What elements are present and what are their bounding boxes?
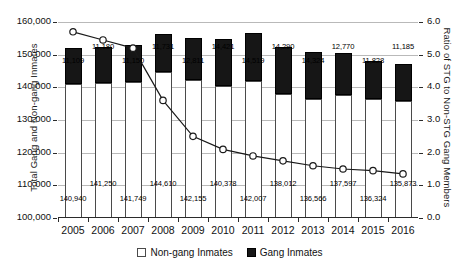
x-axis-tick-label: 2011 (242, 224, 265, 236)
x-axis-tick-label: 2008 (151, 224, 174, 236)
x-axis-tick-label: 2005 (61, 224, 84, 236)
black-fill-swatch (247, 248, 256, 257)
nongang-value-label: 142,155 (180, 194, 207, 203)
y-axis-left-tick-mark (53, 185, 57, 186)
ratio-data-point[interactable] (160, 97, 166, 103)
x-axis-tick-mark (148, 218, 149, 222)
ratio-data-point[interactable] (310, 163, 316, 169)
gang-value-label: 14,324 (302, 56, 325, 65)
x-axis-tick-mark (328, 218, 329, 222)
chart-legend: Non-gang InmatesGang Inmates (0, 247, 460, 258)
ratio-data-point[interactable] (220, 146, 226, 152)
y-axis-right-tick-mark (419, 22, 423, 23)
ratio-data-point[interactable] (400, 171, 406, 177)
gang-value-label: 11,109 (62, 56, 84, 65)
y-axis-left-tick-label: 150,000 (17, 48, 51, 59)
y-axis-right-tick-label: 3.0 (427, 113, 440, 124)
gang-value-label: 14,290 (272, 42, 295, 51)
y-axis-right-tick-label: 4.0 (427, 80, 440, 91)
y-axis-right-tick-label: 0.0 (427, 211, 440, 222)
nongang-value-label: 138,012 (270, 179, 297, 188)
y-axis-left-tick-mark (53, 22, 57, 23)
nongang-value-label: 137,597 (330, 179, 357, 188)
gang-value-label: 14,519 (242, 56, 265, 65)
x-axis-tick-mark (58, 218, 59, 222)
legend-item-label: Non-gang Inmates (150, 247, 232, 258)
y-axis-right-tick-mark (419, 185, 423, 186)
gang-value-label: 12,770 (332, 42, 355, 51)
ratio-data-point[interactable] (250, 153, 256, 159)
ratio-data-point[interactable] (280, 158, 286, 164)
x-axis-tick-mark (178, 218, 179, 222)
x-axis-tick-label: 2014 (331, 224, 354, 236)
y-axis-right-tick-label: 5.0 (427, 48, 440, 59)
gang-value-label: 11,828 (362, 56, 384, 65)
gang-value-label: 11,185 (392, 42, 414, 51)
x-axis-tick-label: 2016 (391, 224, 414, 236)
nongang-value-label: 136,566 (300, 194, 327, 203)
nongang-value-label: 135,873 (390, 179, 417, 188)
x-axis-tick-label: 2010 (211, 224, 234, 236)
nongang-value-label: 144,610 (150, 179, 177, 188)
y-axis-left-tick-label: 160,000 (17, 15, 51, 26)
nongang-value-label: 140,378 (210, 179, 237, 188)
x-axis-tick-mark (388, 218, 389, 222)
x-axis-tick-mark (208, 218, 209, 222)
ratio-data-point[interactable] (130, 45, 136, 51)
gang-value-label: 11,180 (92, 42, 114, 51)
ratio-data-point[interactable] (70, 29, 76, 35)
plot-area: 100,000110,000120,000130,000140,000150,0… (58, 22, 418, 218)
y-axis-left-tick-mark (53, 120, 57, 121)
y-axis-left-tick-mark (53, 218, 57, 219)
y-axis-right-tick-mark (419, 55, 423, 56)
x-axis-line (58, 217, 418, 218)
y-axis-right-tick-mark (419, 87, 423, 88)
y-axis-left-tick-mark (53, 55, 57, 56)
y-axis-left-tick-label: 130,000 (17, 113, 51, 124)
y-axis-right-tick-mark (419, 120, 423, 121)
nongang-value-label: 140,940 (60, 194, 87, 203)
nongang-value-label: 141,250 (90, 179, 117, 188)
stacked-bar-line-chart: Total Gang and Non-gang Inmates Ratio of… (0, 0, 460, 268)
y-axis-right-title: Ratio of STG to Non-STG Gang Members (442, 23, 453, 213)
ratio-data-point[interactable] (370, 167, 376, 173)
y-axis-right-tick-mark (419, 153, 423, 154)
y-axis-left-tick-label: 140,000 (17, 80, 51, 91)
gang-value-label: 14,421 (212, 42, 235, 51)
y-axis-left-tick-mark (53, 87, 57, 88)
x-axis-tick-label: 2013 (301, 224, 324, 236)
y-axis-left-tick-mark (53, 153, 57, 154)
x-axis-tick-label: 2015 (361, 224, 384, 236)
x-axis-tick-mark (358, 218, 359, 222)
y-axis-right-tick-label: 1.0 (427, 178, 440, 189)
x-axis-tick-mark (298, 218, 299, 222)
y-axis-left-tick-label: 110,000 (17, 178, 51, 189)
x-axis-tick-label: 2009 (181, 224, 204, 236)
y-axis-left-tick-label: 100,000 (17, 211, 51, 222)
gang-value-label: 11,731 (152, 42, 174, 51)
x-axis-tick-label: 2007 (121, 224, 144, 236)
ratio-data-point[interactable] (190, 133, 196, 139)
legend-item-label: Gang Inmates (260, 247, 323, 258)
y-axis-left-tick-label: 120,000 (17, 146, 51, 157)
dotted-pattern-swatch (137, 248, 146, 257)
ratio-line-series (58, 22, 418, 218)
ratio-data-point[interactable] (340, 166, 346, 172)
x-axis-tick-mark (238, 218, 239, 222)
nongang-value-label: 141,749 (120, 194, 147, 203)
y-axis-right-tick-mark (419, 218, 423, 219)
y-axis-right-tick-label: 6.0 (427, 15, 440, 26)
legend-item[interactable]: Gang Inmates (247, 247, 323, 258)
x-axis-tick-mark (118, 218, 119, 222)
gang-value-label: 12,811 (182, 56, 204, 65)
x-axis-tick-mark (88, 218, 89, 222)
legend-item[interactable]: Non-gang Inmates (137, 247, 232, 258)
y-axis-right-tick-label: 2.0 (427, 146, 440, 157)
nongang-value-label: 136,324 (360, 194, 387, 203)
nongang-value-label: 142,007 (240, 194, 267, 203)
x-axis-tick-label: 2006 (91, 224, 114, 236)
gang-value-label: 11,150 (122, 56, 144, 65)
ratio-line-path (73, 32, 403, 174)
x-axis-tick-mark (268, 218, 269, 222)
x-axis-tick-label: 2012 (271, 224, 294, 236)
